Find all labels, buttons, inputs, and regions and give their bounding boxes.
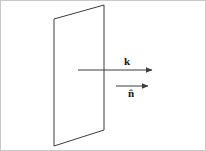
diagram-canvas bbox=[0, 0, 206, 151]
physics-diagram-figure: k n̂ bbox=[0, 0, 206, 151]
wave-vector-label: k bbox=[124, 56, 130, 67]
figure-border bbox=[1, 1, 206, 151]
normal-vector-label: n̂ bbox=[128, 88, 134, 99]
